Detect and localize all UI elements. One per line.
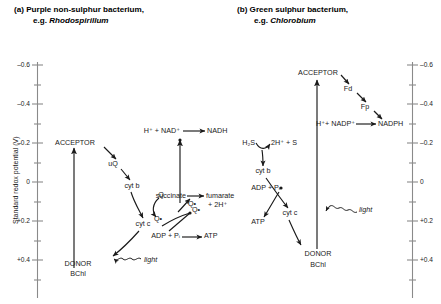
tick-left-1: –0.4	[17, 100, 30, 107]
arrow-b-acceptor-fd	[341, 75, 349, 84]
tick-right-5: +0.4	[420, 256, 433, 263]
figure-canvas: (a) Purple non-sulphur bacterium, e.g. R…	[0, 0, 441, 304]
node-a-donor-line2: BChl	[70, 270, 86, 279]
node-b-h2s: H₂S	[242, 139, 255, 148]
node-a-qdot: Q•	[154, 215, 162, 224]
tick-left-3: 0	[26, 178, 30, 185]
tick-left-4: +0.2	[17, 217, 30, 224]
node-b-fd: Fd	[344, 85, 352, 94]
node-a-atp: ATP	[204, 232, 217, 241]
node-b-cytb: cyt b	[255, 167, 270, 176]
node-b-cytc: cyt c	[283, 209, 298, 218]
node-a-cytb: cyt b	[124, 182, 139, 191]
arrow-b-fd-fp	[357, 93, 366, 102]
arrow-b-cytc-donor	[289, 220, 301, 245]
y-axis-title: Standard redox potential (V)	[12, 136, 19, 224]
arrow-b-light	[326, 206, 357, 213]
arrow-b-adp-atp	[264, 192, 279, 217]
arrow-b-to-cytb	[262, 150, 263, 166]
tick-right-2: –0.2	[420, 139, 433, 146]
arrow-a-qdot-fan1	[162, 213, 190, 226]
node-b-donor-line2: BChl	[310, 261, 326, 270]
tick-right-4: +0.2	[420, 217, 433, 224]
node-a-cytc: cyt c	[136, 220, 151, 229]
node-b-atp: ATP	[251, 218, 264, 227]
right-axis	[407, 62, 418, 298]
node-a-light: light	[144, 256, 157, 265]
tick-right-1: –0.4	[420, 100, 433, 107]
tick-left-2: –0.2	[17, 139, 30, 146]
arrow-a-cytc-donor	[113, 231, 139, 256]
node-a-uq: uQ	[108, 160, 118, 169]
node-b-donor-line1: DONOR	[305, 250, 332, 259]
tick-left-0: –0.6	[17, 61, 30, 68]
arrow-b-fp-nadp	[374, 111, 382, 119]
node-b-fp: Fp	[361, 103, 369, 112]
arrow-a-acceptor-uq	[104, 147, 116, 159]
arrow-a-uq-cytb	[121, 169, 130, 180]
node-b-products: 2H⁺ + S	[271, 139, 297, 148]
arrow-b-h2s-products	[256, 143, 270, 148]
node-a-nadh: NADH	[207, 127, 227, 136]
arrow-a-qdot-fan2	[169, 213, 190, 231]
node-a-nad-reaction: H⁺ + NAD⁺	[144, 127, 180, 136]
node-a-succinate: succinate	[156, 192, 186, 201]
tick-right-0: –0.6	[420, 61, 433, 68]
tick-right-3: 0	[420, 178, 424, 185]
left-axis	[32, 62, 43, 298]
node-b-nadph: NADPH	[378, 120, 403, 129]
node-a-donor-line1: DONOR	[65, 260, 92, 269]
node-a-adp-pi: ADP + Pᵢ	[151, 232, 180, 241]
node-a-acceptor: ACCEPTOR	[55, 139, 95, 148]
tick-left-5: +0.4	[17, 256, 30, 263]
node-b-light: light	[359, 206, 372, 215]
node-b-nadp-reaction: H⁺+ NADP⁺	[316, 120, 355, 129]
node-a-qdot3: Q•	[192, 206, 200, 215]
node-b-adp-pi: ADP + Pᵢ	[251, 184, 280, 193]
arrow-a-light	[114, 258, 141, 260]
node-b-acceptor: ACCEPTOR	[298, 69, 338, 78]
arrow-a-cytb-cytc	[131, 192, 143, 218]
node-a-fumarate-2h: + 2H⁺	[208, 201, 227, 210]
